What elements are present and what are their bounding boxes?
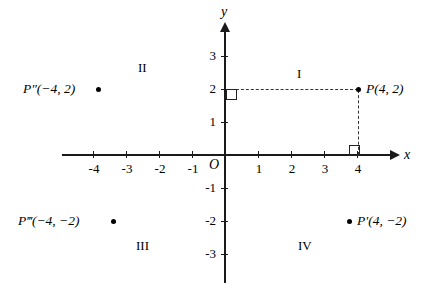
x-tick-mark [126, 151, 127, 158]
x-tick-label: 1 [246, 161, 272, 177]
y-tick-mark [221, 188, 228, 189]
y-tick-label: 1 [186, 114, 216, 130]
origin-label: O [209, 157, 219, 173]
y-axis-line [224, 30, 226, 283]
x-tick-label: 3 [312, 161, 338, 177]
point-label-P-double-prime: P″(−4, 2) [23, 81, 75, 97]
x-tick-label: -2 [147, 161, 173, 177]
quadrant-label-IV: IV [298, 238, 312, 254]
x-tick-label: 2 [279, 161, 305, 177]
y-tick-label: -2 [186, 213, 216, 229]
y-tick-label: 3 [186, 48, 216, 64]
point-dot-P-triple-prime [111, 219, 116, 224]
quadrant-label-III: III [136, 238, 149, 254]
y-tick-mark [221, 221, 228, 222]
x-tick-mark [291, 151, 292, 158]
x-tick-mark [258, 151, 259, 158]
x-tick-mark [159, 151, 160, 158]
x-tick-label: -3 [114, 161, 140, 177]
y-tick-mark [221, 122, 228, 123]
x-axis-line [62, 154, 392, 156]
y-tick-mark [221, 254, 228, 255]
y-tick-label: -1 [186, 180, 216, 196]
x-tick-label: 4 [345, 161, 371, 177]
point-dot-P-prime [347, 219, 352, 224]
x-axis-label: x [404, 147, 410, 163]
point-label-P-triple-prime: P‴(−4, −2) [18, 213, 79, 229]
x-tick-mark [324, 151, 325, 158]
y-tick-label: 2 [186, 81, 216, 97]
y-tick-mark [221, 56, 228, 57]
point-label-P: P(4, 2) [366, 81, 404, 97]
y-tick-label: -3 [186, 246, 216, 262]
dashed-horizontal-line [226, 89, 358, 90]
y-axis-label: y [221, 4, 227, 20]
x-axis-arrowhead [390, 150, 400, 160]
point-label-P-prime: P′(4, −2) [357, 213, 407, 229]
point-dot-P [356, 87, 361, 92]
x-tick-label: -4 [81, 161, 107, 177]
x-tick-mark [192, 151, 193, 158]
quadrant-label-II: II [138, 60, 147, 76]
point-dot-P-double-prime [96, 87, 101, 92]
x-tick-mark [93, 151, 94, 158]
quadrant-label-I: I [297, 66, 301, 82]
x-tick-label: -1 [180, 161, 206, 177]
right-angle-marker-x-axis [349, 145, 360, 156]
y-axis-arrowhead [220, 22, 230, 32]
coordinate-plane-figure: x y O -4 -3 -2 -1 1 2 3 4 3 2 1 -1 -2 -3… [0, 0, 432, 293]
right-angle-marker-y-axis [226, 89, 237, 100]
